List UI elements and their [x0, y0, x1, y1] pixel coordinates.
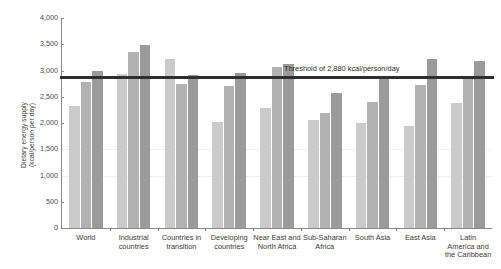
bar-group: [308, 18, 342, 228]
plot-area: 05001,0001,5002,0002,5003,0003,5004,000 …: [62, 18, 492, 228]
y-tick-mark: [61, 228, 64, 229]
bar: [415, 85, 426, 228]
bar-group: [69, 18, 103, 228]
y-axis-title-line-2: (kcal/person per day): [28, 60, 36, 210]
category-label-line: Africa: [295, 243, 355, 252]
y-tick-label: 4,000: [2, 14, 58, 22]
bar-group: [356, 18, 390, 228]
y-axis-title-line-1: Dietary energy supply: [20, 60, 28, 210]
group-separator: [301, 228, 302, 231]
bar: [165, 59, 176, 228]
threshold-line: [60, 76, 494, 79]
y-axis-title: Dietary energy supply (kcal/person per d…: [0, 60, 22, 210]
bar: [235, 73, 246, 228]
y-tick-label: 3,000: [2, 67, 58, 75]
y-tick-mark: [61, 44, 64, 45]
bar: [140, 45, 151, 228]
bar: [379, 77, 390, 228]
bar: [451, 103, 462, 228]
y-tick-label: 3,500: [2, 40, 58, 48]
y-tick-label: 2,000: [2, 119, 58, 127]
bar: [176, 84, 187, 228]
bar: [272, 67, 283, 228]
bar-group: [117, 18, 151, 228]
bar: [92, 71, 103, 229]
bar-group: [404, 18, 438, 228]
bar: [474, 61, 485, 228]
bar: [356, 123, 367, 228]
bar: [69, 106, 80, 228]
y-tick-label: 1,000: [2, 172, 58, 180]
bar-group: [451, 18, 485, 228]
y-tick-label: 2,500: [2, 93, 58, 101]
bar: [260, 108, 271, 228]
y-tick-mark: [61, 18, 64, 19]
bar: [331, 93, 342, 228]
dietary-energy-supply-chart: Dietary energy supply (kcal/person per d…: [0, 0, 501, 269]
group-separator: [110, 228, 111, 231]
group-separator: [349, 228, 350, 231]
bar: [224, 86, 235, 228]
bar-group: [260, 18, 294, 228]
bar: [404, 126, 415, 228]
bar: [188, 75, 199, 228]
y-tick-mark: [61, 202, 64, 203]
y-tick-mark: [61, 123, 64, 124]
bar: [117, 74, 128, 228]
bar: [320, 113, 331, 228]
y-tick-label: 1,500: [2, 145, 58, 153]
bar: [463, 79, 474, 228]
y-tick-mark: [61, 97, 64, 98]
group-separator: [158, 228, 159, 231]
bar-group: [165, 18, 199, 228]
group-separator: [253, 228, 254, 231]
group-separator: [205, 228, 206, 231]
bar: [308, 120, 319, 228]
y-tick-mark: [61, 71, 64, 72]
bar: [367, 102, 378, 228]
bar: [81, 82, 92, 228]
threshold-label: Threshold of 2,880 kcal/person/day: [284, 64, 399, 73]
category-label: LatinAmerica andthe Caribbean: [438, 234, 498, 260]
bar: [427, 59, 438, 228]
y-tick-label: 0: [2, 224, 58, 232]
x-axis-line: [61, 228, 492, 229]
category-label-line: the Caribbean: [438, 251, 498, 260]
bar-group: [212, 18, 246, 228]
bar: [283, 64, 294, 228]
bar: [212, 122, 223, 228]
y-tick-label: 500: [2, 198, 58, 206]
group-separator: [396, 228, 397, 231]
group-separator: [444, 228, 445, 231]
